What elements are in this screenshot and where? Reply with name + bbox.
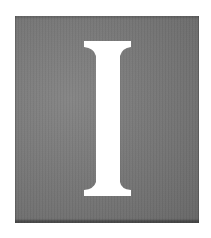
drop-cap-letter-i: I xyxy=(0,0,211,238)
